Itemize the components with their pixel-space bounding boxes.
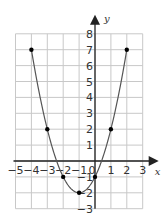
y-tick-label: 8 <box>86 28 93 41</box>
x-axis-label: x <box>155 166 161 177</box>
x-axis-arrow-icon <box>149 156 159 166</box>
x-tick-label: −5 <box>7 164 23 177</box>
y-tick-label: 1 <box>86 139 93 152</box>
y-tick-label: −3 <box>77 203 93 216</box>
y-axis-arrow-icon <box>90 15 100 25</box>
x-tick-label: −3 <box>39 164 55 177</box>
x-tick-label: −4 <box>23 164 39 177</box>
y-tick-label: 2 <box>86 123 93 136</box>
y-tick-label: 4 <box>86 91 93 104</box>
x-tick-label: 1 <box>107 164 114 177</box>
data-point <box>45 127 49 131</box>
x-tick-label: 2 <box>123 164 130 177</box>
y-tick-label: 6 <box>86 60 93 73</box>
data-point <box>77 191 81 195</box>
data-point <box>125 48 129 52</box>
x-tick-label: 3 <box>139 164 146 177</box>
y-tick-label: 5 <box>86 76 93 89</box>
y-tick-label: −1 <box>77 171 93 184</box>
data-point <box>29 48 33 52</box>
y-tick-label: 7 <box>86 44 93 57</box>
y-tick-label: 3 <box>86 107 93 120</box>
data-point <box>109 127 113 131</box>
data-point <box>93 175 97 179</box>
y-axis-label: y <box>103 13 110 24</box>
parabola-chart: −5−4−3−2−1012387654321−1−2−3 x y <box>0 0 167 216</box>
data-point <box>61 175 65 179</box>
